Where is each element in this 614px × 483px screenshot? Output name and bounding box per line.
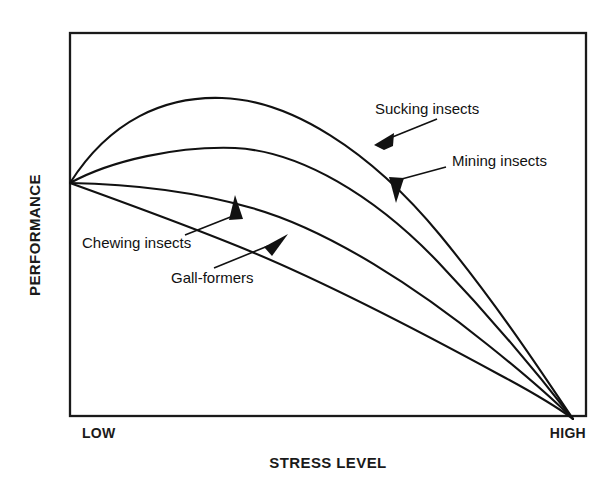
performance-stress-chart: Sucking insects Mining insects Chewing i… bbox=[0, 0, 614, 483]
label-sucking-insects: Sucking insects bbox=[375, 100, 479, 117]
leader-line-mining-insects bbox=[398, 167, 446, 180]
curve-gall-formers bbox=[70, 183, 573, 419]
curve-chewing-insects bbox=[70, 183, 573, 419]
arrowhead-gall-formers bbox=[264, 234, 288, 256]
x-tick-label-low: LOW bbox=[82, 425, 116, 441]
curve-sucking-insects bbox=[70, 98, 573, 419]
x-axis-title: STRESS LEVEL bbox=[269, 454, 386, 471]
leader-line-chewing-insects bbox=[185, 216, 233, 235]
arrowhead-chewing-insects bbox=[229, 195, 243, 220]
x-tick-label-high: HIGH bbox=[550, 425, 586, 441]
label-mining-insects: Mining insects bbox=[452, 152, 547, 169]
plot-frame bbox=[70, 33, 586, 416]
figure-root: Sucking insects Mining insects Chewing i… bbox=[0, 0, 614, 483]
label-gall-formers: Gall-formers bbox=[171, 269, 254, 286]
arrowhead-mining-insects bbox=[389, 177, 404, 203]
arrowhead-sucking-insects bbox=[374, 133, 394, 150]
label-chewing-insects: Chewing insects bbox=[82, 234, 191, 251]
y-axis-title: PERFORMANCE bbox=[26, 174, 43, 296]
leader-line-gall-formers bbox=[214, 246, 268, 268]
